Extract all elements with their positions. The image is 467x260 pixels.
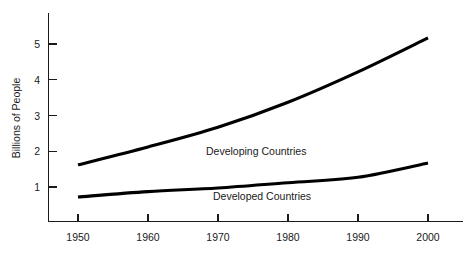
x-tick-label-1990: 1990: [346, 231, 370, 243]
x-tick-label-1980: 1980: [276, 231, 300, 243]
population-line-chart: 5 4 3 2 1 1950 1960 1970 1980 1990 2000 …: [0, 0, 467, 260]
y-axis-title: Billions of People: [10, 78, 22, 159]
x-tick-label-1950: 1950: [66, 231, 90, 243]
x-tick-label-1970: 1970: [206, 231, 230, 243]
series-annotation-developing: Developing Countries: [206, 145, 306, 157]
x-tick-label-2000: 2000: [416, 231, 440, 243]
y-tick-label-1: 1: [34, 181, 40, 193]
chart-canvas: 5 4 3 2 1 1950 1960 1970 1980 1990 2000 …: [0, 0, 467, 260]
series-annotation-developed: Developed Countries: [213, 190, 311, 202]
y-tick-label-5: 5: [34, 38, 40, 50]
y-tick-label-3: 3: [34, 110, 40, 122]
y-tick-label-4: 4: [34, 74, 40, 86]
y-tick-label-2: 2: [34, 145, 40, 157]
x-tick-label-1960: 1960: [136, 231, 160, 243]
